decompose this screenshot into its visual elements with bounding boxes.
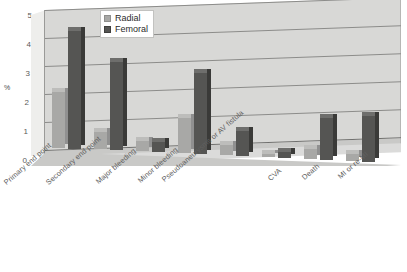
legend-swatch-radial-icon	[104, 15, 111, 22]
bar-radial-pseudoaneurysms-or-av-fistula	[220, 145, 233, 155]
legend-label-radial: Radial	[115, 13, 141, 24]
y-tick-label-4: 4	[18, 40, 31, 49]
bar-radial-minor-bleeding	[178, 118, 191, 153]
bar-femoral-pseudoaneurysms-or-av-fistula	[236, 131, 249, 156]
legend: Radial Femoral	[100, 10, 154, 38]
bar-femoral-secondary-end-point	[110, 62, 123, 150]
bar-radial-death	[304, 149, 317, 159]
legend-label-femoral: Femoral	[115, 24, 148, 35]
legend-item-radial: Radial	[104, 13, 148, 24]
bar-femoral-primary-end-point	[68, 31, 81, 149]
legend-swatch-femoral-icon	[104, 26, 111, 33]
cut-caption-strip	[0, 262, 407, 272]
y-tick-label-2: 2	[16, 98, 29, 107]
y-axis-title: %	[4, 84, 10, 91]
y-tick-label-1: 1	[15, 127, 28, 136]
y-tick-label-3: 3	[17, 69, 30, 78]
figure-container: % 0 1 2 3 4 5	[0, 0, 407, 272]
bar-radial-major-bleeding	[136, 141, 149, 151]
bar-femoral-death	[320, 118, 333, 160]
x-label-cva: CVA	[266, 166, 283, 183]
bar-femoral-cva	[278, 152, 291, 158]
x-axis-labels: Primary end point Secondary end point Ma…	[0, 166, 407, 252]
legend-item-femoral: Femoral	[104, 24, 148, 35]
bar-radial-cva	[262, 154, 275, 157]
bar-femoral-major-bleeding	[152, 142, 165, 152]
bar-radial-primary-end-point	[52, 92, 65, 148]
